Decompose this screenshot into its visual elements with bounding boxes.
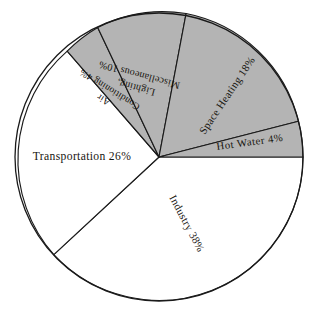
pie-label-transportation: Transportation 26% [33, 150, 131, 163]
pie-chart-svg: Transportation 26% Industry 38% Space He… [0, 0, 315, 315]
pie-chart: Transportation 26% Industry 38% Space He… [0, 0, 315, 315]
